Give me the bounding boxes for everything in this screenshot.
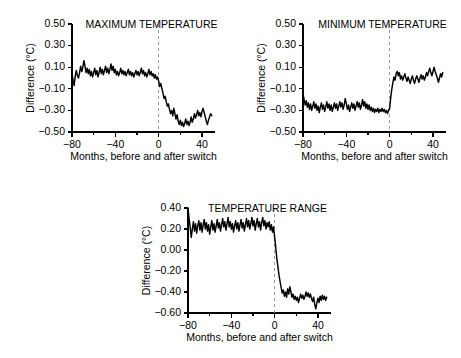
data-series-line: [303, 67, 443, 113]
x-tick-label: 0: [156, 138, 162, 150]
x-tick-label: 40: [196, 138, 208, 150]
chart-panel-temperature-range: 0.400.200.00−0.20−0.40−0.60−80−40040TEMP…: [116, 182, 346, 358]
x-tick-label: 0: [387, 138, 393, 150]
y-axis-title: Difference (°C): [140, 226, 152, 295]
y-tick-label: −0.60: [154, 306, 181, 318]
y-tick-label: 0.00: [161, 243, 182, 255]
plot-area-maximum-temperature: 0.500.300.10−0.10−0.30−0.50−80−40040MAXI…: [24, 17, 218, 162]
y-tick-label: 0.40: [161, 201, 182, 213]
x-tick-label: −80: [179, 319, 197, 331]
chart-title: MINIMUM TEMPERATURE: [318, 18, 447, 30]
y-tick-label: −0.20: [154, 264, 181, 276]
y-tick-label: −0.50: [269, 125, 296, 137]
y-axis-title: Difference (°C): [255, 43, 267, 112]
x-axis-title: Months, before and after switch: [186, 331, 333, 343]
x-axis-title: Months, before and after switch: [301, 150, 448, 162]
x-axis-title: Months, before and after switch: [70, 150, 217, 162]
x-tick-label: −80: [294, 138, 312, 150]
x-tick-label: 0: [272, 319, 278, 331]
plot-area-minimum-temperature: 0.500.300.10−0.10−0.30−0.50−80−40040MINI…: [255, 17, 448, 162]
y-tick-label: −0.30: [269, 103, 296, 115]
y-tick-label: 0.50: [276, 17, 297, 29]
chart-panel-maximum-temperature: 0.500.300.10−0.10−0.30−0.50−80−40040MAXI…: [0, 0, 230, 180]
y-tick-label: 0.10: [276, 60, 297, 72]
chart-title: MAXIMUM TEMPERATURE: [85, 18, 217, 30]
x-tick-label: −40: [106, 138, 124, 150]
chart-svg-minimum-temperature: 0.500.300.10−0.10−0.30−0.50−80−40040MINI…: [231, 0, 461, 180]
chart-svg-maximum-temperature: 0.500.300.10−0.10−0.30−0.50−80−40040MAXI…: [0, 0, 230, 180]
x-tick-label: −40: [222, 319, 240, 331]
chart-panel-minimum-temperature: 0.500.300.10−0.10−0.30−0.50−80−40040MINI…: [231, 0, 461, 180]
y-tick-label: −0.30: [38, 103, 65, 115]
y-tick-label: 0.10: [45, 60, 66, 72]
data-series-line: [188, 208, 327, 309]
y-tick-label: −0.10: [38, 82, 65, 94]
x-tick-label: −80: [63, 138, 81, 150]
y-tick-label: 0.50: [45, 17, 66, 29]
plot-area-temperature-range: 0.400.200.00−0.20−0.40−0.60−80−40040TEMP…: [140, 201, 333, 343]
y-tick-label: 0.30: [45, 38, 66, 50]
y-tick-label: −0.10: [269, 82, 296, 94]
chart-svg-temperature-range: 0.400.200.00−0.20−0.40−0.60−80−40040TEMP…: [116, 182, 346, 358]
x-tick-label: 40: [427, 138, 439, 150]
data-series-line: [72, 61, 212, 127]
y-tick-label: −0.40: [154, 285, 181, 297]
chart-title: TEMPERATURE RANGE: [208, 202, 327, 214]
figure-panel-group: 0.500.300.10−0.10−0.30−0.50−80−40040MAXI…: [0, 0, 461, 358]
y-axis-title: Difference (°C): [24, 43, 36, 112]
y-tick-label: 0.20: [161, 222, 182, 234]
y-tick-label: −0.50: [38, 125, 65, 137]
y-tick-label: 0.30: [276, 38, 297, 50]
x-tick-label: −40: [337, 138, 355, 150]
x-tick-label: 40: [312, 319, 324, 331]
